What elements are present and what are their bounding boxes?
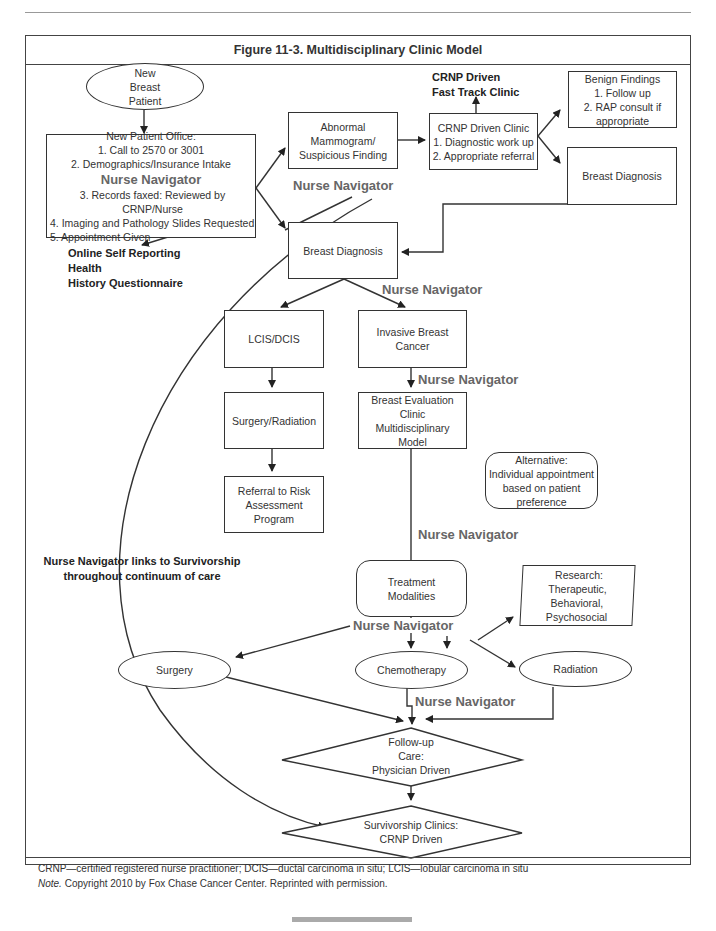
radiation-node: Radiation bbox=[519, 651, 632, 687]
footnote-divider bbox=[25, 857, 691, 858]
node-text: Multidisciplinary bbox=[375, 421, 449, 435]
node-text: Survivorship Clinics: bbox=[331, 818, 491, 832]
node-text: preference bbox=[516, 495, 566, 509]
label-line: Health bbox=[68, 261, 183, 276]
crnp-clinic-node: CRNP Driven Clinic 1. Diagnostic work up… bbox=[429, 113, 538, 170]
alternative-node: Alternative: Individual appointment base… bbox=[485, 452, 598, 509]
page-footer-bar bbox=[292, 917, 412, 922]
fast-track-label: CRNP Driven Fast Track Clinic bbox=[432, 70, 519, 100]
node-text: Alternative: bbox=[515, 453, 568, 467]
node-text: Invasive Breast bbox=[377, 325, 449, 339]
copyright-note: Note. Copyright 2010 by Fox Chase Cancer… bbox=[38, 878, 388, 889]
benign-findings-node: Benign Findings 1. Follow up 2. RAP cons… bbox=[568, 71, 677, 128]
node-text: Treatment bbox=[388, 575, 435, 589]
abnormal-mammogram-node: Abnormal Mammogram/ Suspicious Finding bbox=[288, 112, 398, 169]
node-text: Therapeutic, bbox=[549, 582, 607, 596]
label-line: CRNP Driven bbox=[432, 70, 519, 85]
node-text: 2. Appropriate referral bbox=[433, 149, 535, 163]
node-text: Chemotherapy bbox=[377, 663, 446, 677]
node-text: Modalities bbox=[388, 589, 435, 603]
referral-risk-node: Referral to Risk Assessment Program bbox=[224, 476, 324, 533]
survivorship-clinics-node: Survivorship Clinics: CRNP Driven bbox=[331, 818, 491, 846]
breast-diagnosis-right-node: Breast Diagnosis bbox=[567, 147, 677, 205]
node-text: New bbox=[134, 66, 155, 80]
node-text: 5. Appointment Given bbox=[47, 230, 150, 244]
figure-title: Figure 11-3. Multidisciplinary Clinic Mo… bbox=[25, 35, 691, 65]
label-line: Nurse Navigator links to Survivorship bbox=[42, 554, 242, 569]
note-label: Note. bbox=[38, 878, 62, 889]
abbreviations-note: CRNP—certified registered nurse practiti… bbox=[38, 863, 528, 874]
online-questionnaire-label: Online Self Reporting Health History Que… bbox=[68, 246, 183, 291]
node-text: 1. Diagnostic work up bbox=[433, 135, 533, 149]
invasive-cancer-node: Invasive Breast Cancer bbox=[358, 310, 467, 368]
label-line: Online Self Reporting bbox=[68, 246, 183, 261]
node-text: Abnormal bbox=[321, 120, 366, 134]
node-text: 3. Records faxed: Reviewed by CRNP/Nurse bbox=[47, 188, 255, 216]
surgery-radiation-node: Surgery/Radiation bbox=[224, 392, 324, 449]
label-line: throughout continuum of care bbox=[42, 569, 242, 584]
node-text: Individual appointment bbox=[489, 467, 594, 481]
node-text: Cancer bbox=[396, 339, 430, 353]
page-header-rule bbox=[25, 12, 691, 13]
node-text: 2. Demographics/Insurance Intake bbox=[71, 157, 231, 171]
nurse-navigator-label: Nurse Navigator bbox=[353, 618, 453, 633]
nurse-navigator-label: Nurse Navigator bbox=[415, 694, 515, 709]
node-text: 4. Imaging and Pathology Slides Requeste… bbox=[47, 216, 254, 230]
node-text: Mammogram/ bbox=[311, 134, 376, 148]
node-text: Radiation bbox=[553, 662, 597, 676]
node-text: appropriate bbox=[596, 114, 649, 128]
node-text: Behavioral, bbox=[551, 596, 604, 610]
node-text: Surgery/Radiation bbox=[232, 414, 316, 428]
treatment-modalities-node: Treatment Modalities bbox=[356, 560, 467, 617]
surgery-node: Surgery bbox=[118, 651, 231, 689]
new-breast-patient-node: New Breast Patient bbox=[86, 63, 204, 110]
breast-diagnosis-center-node: Breast Diagnosis bbox=[288, 222, 398, 279]
node-heading: New Patient Office: bbox=[106, 129, 196, 143]
node-text: 1. Call to 2570 or 3001 bbox=[98, 143, 204, 157]
survivorship-link-label: Nurse Navigator links to Survivorship th… bbox=[42, 554, 242, 584]
note-text: Copyright 2010 by Fox Chase Cancer Cente… bbox=[62, 878, 388, 889]
node-text: Care: bbox=[331, 749, 491, 763]
node-text: 2. RAP consult if bbox=[584, 100, 661, 114]
node-text: CRNP Driven Clinic bbox=[438, 121, 529, 135]
chemotherapy-node: Chemotherapy bbox=[355, 651, 468, 689]
node-text: Patient bbox=[129, 94, 162, 108]
label-line: History Questionnaire bbox=[68, 276, 183, 291]
node-text: CRNP Driven bbox=[331, 832, 491, 846]
node-text: Benign Findings bbox=[585, 72, 660, 86]
node-text: Surgery bbox=[156, 663, 193, 677]
nurse-navigator-label: Nurse Navigator bbox=[382, 282, 482, 297]
nurse-navigator-label: Nurse Navigator bbox=[418, 527, 518, 542]
nurse-navigator-label: Nurse Navigator bbox=[418, 372, 518, 387]
node-text: Clinic bbox=[400, 407, 426, 421]
node-text: based on patient bbox=[503, 481, 581, 495]
follow-up-care-node: Follow-up Care: Physician Driven bbox=[331, 735, 491, 777]
new-patient-office-node: New Patient Office: 1. Call to 2570 or 3… bbox=[46, 134, 256, 238]
node-text: LCIS/DCIS bbox=[248, 332, 299, 346]
node-text: Breast Evaluation bbox=[371, 393, 453, 407]
node-text: Assessment Program bbox=[225, 498, 323, 526]
node-text: Suspicious Finding bbox=[299, 148, 387, 162]
research-node: Research: Therapeutic, Behavioral, Psych… bbox=[519, 565, 635, 626]
breast-evaluation-clinic-node: Breast Evaluation Clinic Multidisciplina… bbox=[358, 392, 467, 449]
node-text: Follow-up bbox=[331, 735, 491, 749]
node-text: Referral to Risk bbox=[238, 484, 310, 498]
nurse-navigator-label: Nurse Navigator bbox=[101, 171, 201, 188]
nurse-navigator-label: Nurse Navigator bbox=[293, 178, 393, 193]
node-text: Physician Driven bbox=[331, 763, 491, 777]
node-text: 1. Follow up bbox=[594, 86, 651, 100]
node-text: Model bbox=[398, 435, 427, 449]
node-text: Breast Diagnosis bbox=[303, 244, 382, 258]
lcis-dcis-node: LCIS/DCIS bbox=[224, 310, 324, 368]
node-text: Breast bbox=[130, 80, 160, 94]
node-text: Breast Diagnosis bbox=[582, 169, 661, 183]
label-line: Fast Track Clinic bbox=[432, 85, 519, 100]
node-text: Psychosocial bbox=[546, 610, 607, 624]
node-text: Research: bbox=[555, 568, 603, 582]
